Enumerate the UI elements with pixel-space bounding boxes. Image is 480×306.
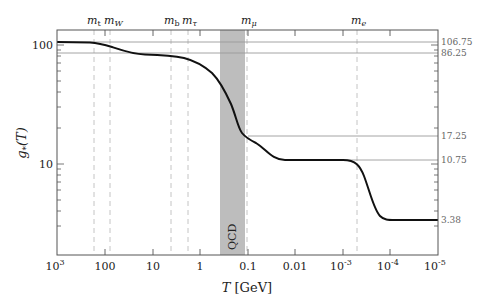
marker-label-mmu: mμ [241, 14, 257, 28]
ref-label-10: 10.75 [441, 155, 467, 165]
reference-lines [57, 42, 438, 160]
ref-label-106: 106.75 [441, 37, 473, 47]
plot-frame [57, 30, 438, 255]
x-tick-0.1: 0.1 [239, 260, 257, 273]
ref-label-86: 86.25 [441, 48, 467, 58]
marker-label-mtau: mτ [182, 14, 197, 28]
y-axis-ticks [57, 45, 438, 226]
marker-label-mt: mt [87, 14, 101, 28]
y-tick-100: 100 [32, 39, 53, 52]
x-tick-1e-3: 10-3 [330, 258, 352, 273]
y-axis-title: g*(T) [14, 127, 31, 159]
qcd-band [220, 30, 245, 255]
x-tick-0.01: 0.01 [283, 260, 308, 273]
x-tick-1: 1 [197, 260, 204, 273]
x-tick-1e3: 103 [45, 258, 64, 273]
x-tick-100: 100 [95, 260, 116, 273]
gstar-curve [57, 42, 438, 220]
x-axis-ticks [105, 30, 390, 255]
marker-label-mw: mW [104, 14, 123, 28]
x-tick-10: 10 [146, 260, 160, 273]
x-tick-labels: 103 100 10 1 0.1 0.01 10-3 10-4 10-5 [45, 258, 445, 273]
x-tick-1e-5: 10-5 [424, 258, 446, 273]
x-axis-title: T[GeV] [222, 280, 272, 295]
y-tick-10: 10 [39, 158, 53, 171]
qcd-label: QCD [226, 224, 239, 250]
gstar-chart: QCD [0, 0, 480, 306]
ref-label-17: 17.25 [441, 131, 467, 141]
marker-label-me: me [351, 14, 366, 28]
marker-label-mb: mb [164, 14, 180, 28]
ref-label-3: 3.38 [441, 215, 461, 225]
x-tick-1e-4: 10-4 [377, 258, 399, 273]
